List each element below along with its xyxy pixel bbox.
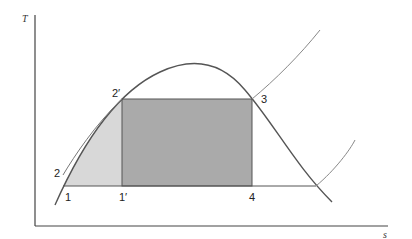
y-axis-label: T	[22, 13, 29, 24]
point-1prime-label: 1′	[119, 191, 127, 203]
ts-diagram: T s 1 1′ 2 2′ 3 4	[0, 0, 412, 239]
point-2prime-label: 2′	[112, 87, 120, 99]
point-2-label: 2	[54, 167, 60, 179]
x-axis-label: s	[383, 229, 387, 239]
superheat-line-4	[316, 140, 355, 186]
point-1-label: 1	[65, 191, 71, 203]
point-3-label: 3	[261, 93, 267, 105]
region-dark-rect	[122, 99, 252, 186]
region-light	[63, 99, 122, 186]
superheat-line-3	[252, 30, 320, 99]
point-4-label: 4	[249, 191, 255, 203]
